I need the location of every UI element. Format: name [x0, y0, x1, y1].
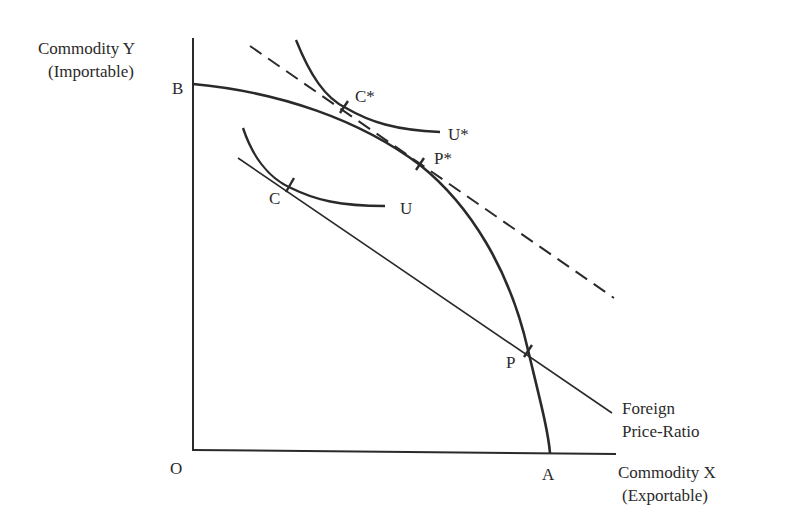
curve-u-star-label: U* — [448, 125, 469, 144]
y-axis-label: Commodity Y — [38, 39, 135, 58]
curve-u-label: U — [400, 199, 412, 218]
point-p-star-label: P* — [434, 149, 452, 168]
indifference-curve-u — [243, 128, 385, 206]
point-c-star-label: C* — [355, 87, 375, 106]
point-a-label: A — [542, 465, 555, 484]
origin-label: O — [170, 459, 182, 478]
indifference-curve-u-star — [296, 40, 440, 132]
point-b-label: B — [172, 79, 183, 98]
foreign-price-ratio-sublabel: Price-Ratio — [622, 422, 699, 441]
foreign-price-ratio-label: Foreign — [622, 399, 675, 418]
point-p-label: P — [506, 353, 515, 372]
y-axis-sublabel: (Importable) — [48, 62, 134, 81]
x-axis — [192, 450, 616, 454]
trade-diagram: Commodity Y (Importable) Commodity X (Ex… — [0, 0, 799, 528]
x-axis-sublabel: (Exportable) — [622, 486, 708, 505]
dashed-price-line — [250, 46, 614, 298]
foreign-price-ratio-line — [238, 158, 612, 413]
point-c-label: C — [269, 189, 280, 208]
x-axis-label: Commodity X — [618, 463, 716, 482]
